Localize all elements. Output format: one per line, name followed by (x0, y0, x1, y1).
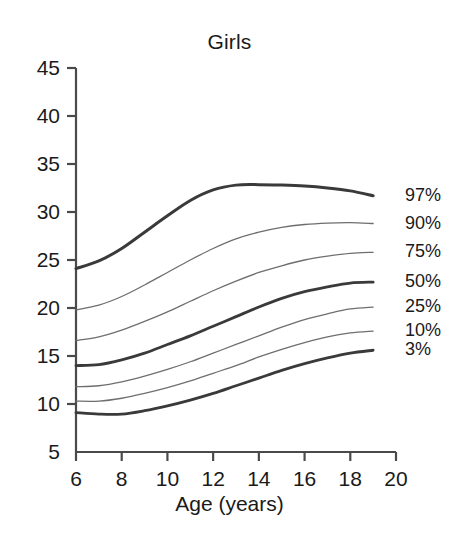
x-tick-label: 6 (56, 468, 96, 489)
x-tick-label: 8 (102, 468, 142, 489)
series-label-90pct: 90% (405, 214, 441, 232)
series-label-50pct: 50% (405, 272, 441, 290)
y-tick-label: 45 (16, 57, 60, 78)
x-axis-title: Age (years) (0, 492, 459, 516)
x-tick-label: 12 (193, 468, 233, 489)
series-label-10pct: 10% (405, 321, 441, 339)
y-tick-label: 20 (16, 297, 60, 318)
y-tick-label: 30 (16, 201, 60, 222)
bmi-percentile-chart: Girls 51015202530354045 68101214161820 9… (0, 0, 459, 549)
series-label-3pct: 3% (405, 340, 431, 358)
y-tick-label: 10 (16, 393, 60, 414)
x-tick-label: 14 (239, 468, 279, 489)
x-tick-label: 10 (147, 468, 187, 489)
x-tick-label: 20 (376, 468, 416, 489)
series-curve-90pct (76, 223, 373, 310)
series-curve-25pct (76, 307, 373, 387)
y-tick-label: 40 (16, 105, 60, 126)
x-tick-label: 18 (330, 468, 370, 489)
y-tick-label: 5 (16, 441, 60, 462)
series-label-97pct: 97% (405, 186, 441, 204)
y-tick-label: 35 (16, 153, 60, 174)
y-tick-label: 15 (16, 345, 60, 366)
series-label-75pct: 75% (405, 242, 441, 260)
series-curve-50pct (76, 282, 373, 366)
series-label-25pct: 25% (405, 297, 441, 315)
x-tick-label: 16 (285, 468, 325, 489)
y-tick-label: 25 (16, 249, 60, 270)
